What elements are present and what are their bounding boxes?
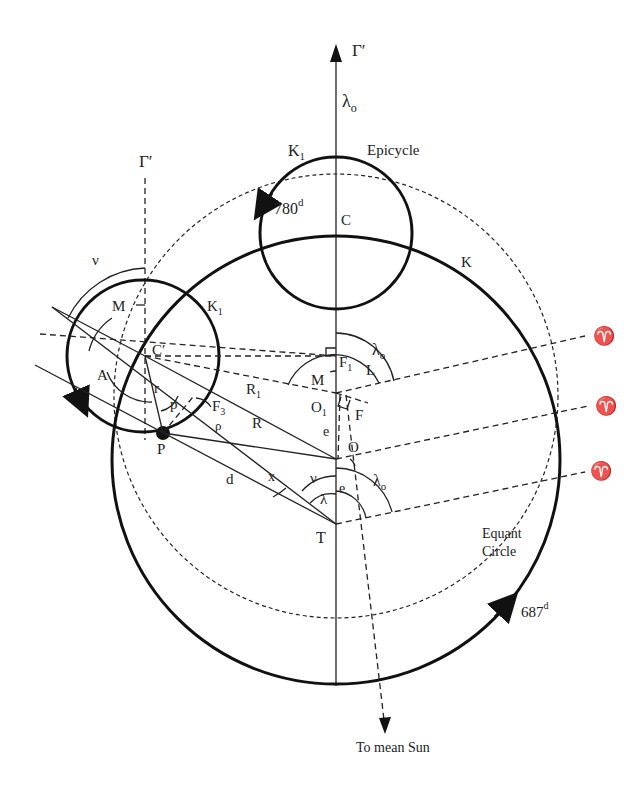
label-e-lower: e (339, 481, 345, 496)
label-big-r: R (252, 415, 262, 431)
label-c: C (341, 212, 351, 228)
label-f3: F3 (212, 398, 225, 417)
aries-symbol-1: ♈ (593, 325, 615, 346)
label-k1-top: K1 (288, 142, 305, 162)
aries-symbol-2: ♈ (595, 395, 617, 416)
dashed-c-prime-to-o1 (145, 356, 336, 393)
label-r1: R1 (246, 381, 261, 400)
label-c-prime: C′ (152, 342, 165, 358)
label-o: O (348, 439, 359, 455)
arc-nu-left (68, 268, 145, 318)
arc-x (273, 488, 286, 497)
label-m-left: M (112, 298, 125, 314)
label-x: x (268, 469, 275, 484)
label-to-mean-sun: To mean Sun (356, 740, 430, 755)
label-period-epicycle: 780d (274, 196, 304, 217)
label-epicycle: Epicycle (367, 142, 420, 158)
label-f: F (355, 407, 363, 423)
label-period-orbit: 687d (521, 600, 549, 620)
label-equant: Equant (482, 526, 522, 541)
label-d: d (226, 471, 234, 487)
label-lambda0-mid: λo (372, 341, 386, 361)
orbit-arrow-icon (495, 603, 508, 617)
arc-m-mid (330, 371, 336, 372)
epicycle-arrow-icon (262, 193, 272, 208)
label-k1-left: K1 (207, 298, 223, 317)
label-l: L (366, 362, 375, 378)
label-circle: Circle (482, 544, 516, 559)
label-r: r (154, 380, 159, 396)
label-nu-left: ν (92, 252, 99, 268)
aries-symbol-3: ♈ (590, 460, 612, 481)
line-p-to-t (35, 365, 336, 524)
label-lambda0-top: λo (342, 91, 357, 115)
label-m-mid: M (311, 372, 324, 388)
epicycle-left-arrow-icon (75, 388, 82, 404)
label-lambda-lower: λ (320, 491, 328, 507)
label-lambda0-lower: λo (373, 472, 387, 492)
label-planet-p: P (157, 441, 165, 457)
arc-nu-lower (302, 476, 336, 491)
dashed-c-prime-to-f1 (40, 334, 336, 356)
label-gamma-top: Γ′ (352, 41, 366, 60)
diagram-canvas: Γ′ λo K1 Epicycle 780d C K Γ′ ν M K1 C′ … (0, 0, 640, 794)
label-a: A (97, 367, 108, 383)
label-p: p (170, 396, 178, 412)
label-gamma-left: Γ′ (139, 152, 153, 171)
label-k: K (461, 254, 472, 270)
label-o1: O1 (311, 399, 327, 418)
arc-m-left (89, 318, 112, 351)
dashed-aries-line-2 (336, 406, 588, 459)
label-e-upper: e (323, 424, 329, 439)
axis-arrowhead-icon (330, 44, 342, 62)
label-nu-lower: ν (310, 470, 317, 486)
label-rho: ρ (215, 418, 222, 433)
right-angle-f (338, 397, 350, 409)
label-t: T (316, 529, 326, 546)
to-sun-arrowhead-icon (379, 717, 391, 734)
